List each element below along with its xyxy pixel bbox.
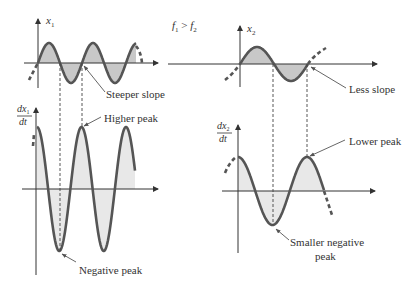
annotation-higher-peak: Higher peak — [84, 112, 159, 126]
svg-text:Higher peak: Higher peak — [104, 112, 159, 124]
x1-axis-label: x1 — [45, 14, 55, 29]
frequency-condition-label: f1 > f2 — [172, 19, 197, 34]
x2-tail-dash — [308, 48, 326, 64]
svg-text:peak: peak — [315, 250, 336, 262]
x1-tail-dash — [136, 46, 142, 63]
annotation-less-slope: Less slope — [311, 67, 395, 95]
derivative-frequency-diagram: x1 dx1 dt Steeper slope Higher peak Nega… — [0, 0, 408, 286]
svg-text:dx1: dx1 — [17, 103, 29, 115]
annotation-smaller-negative-peak: Smaller negative peak — [276, 229, 364, 262]
svg-text:Less slope: Less slope — [349, 83, 395, 95]
dx2-tail-dash — [324, 191, 332, 215]
dx2-axis-label: dx2 dt — [217, 120, 232, 144]
svg-text:dt: dt — [219, 133, 227, 144]
annotation-negative-peak: Negative peak — [62, 254, 143, 276]
svg-text:Lower peak: Lower peak — [349, 135, 402, 147]
x2-axis-label: x2 — [246, 22, 256, 37]
x2-lead-in-dash — [225, 64, 240, 80]
dx1-lead-in-dash — [33, 134, 34, 146]
annotation-lower-peak: Lower peak — [310, 135, 402, 156]
svg-text:Steeper slope: Steeper slope — [106, 88, 165, 100]
svg-text:Smaller negative: Smaller negative — [290, 236, 364, 248]
dx2-lead-in-dash — [225, 158, 235, 173]
dx1-axis-label: dx1 dt — [17, 103, 32, 127]
panel-x1: x1 — [24, 14, 158, 88]
svg-text:dx2: dx2 — [217, 120, 229, 132]
panel-x2: x2 — [168, 22, 377, 87]
annotation-steeper-slope: Steeper slope — [84, 66, 165, 100]
svg-text:Negative peak: Negative peak — [79, 264, 143, 276]
svg-text:dt: dt — [19, 116, 27, 127]
x1-lead-in-dash — [29, 63, 38, 80]
panel-dx1-dt: dx1 dt — [17, 103, 158, 275]
